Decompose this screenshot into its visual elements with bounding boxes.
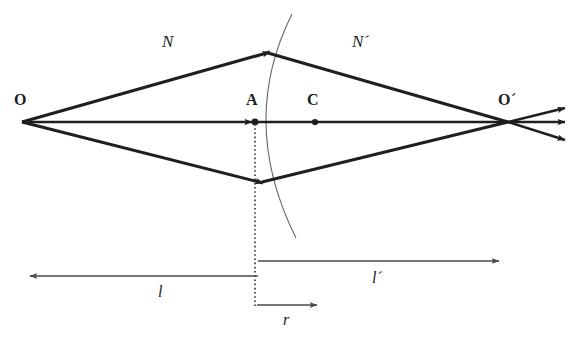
image-point-label: O´ [498, 92, 517, 108]
incident-medium-label: N [162, 33, 173, 50]
exit-ray-upper [508, 108, 565, 122]
image-distance-label: l´ [372, 270, 382, 286]
spherical-surface-arc [266, 14, 296, 238]
object-point-label: O [14, 92, 27, 108]
upper-refracted-ray [268, 53, 508, 122]
vertex-point-label: A [246, 92, 258, 108]
object-distance-label: l [158, 284, 162, 300]
center-point-label: C [307, 92, 319, 108]
lower-refracted-ray [262, 122, 508, 182]
radius-label: r [283, 312, 289, 328]
exit-ray-lower [508, 122, 565, 140]
optics-ray-diagram: O A C O´ N N´ l l´ r [0, 0, 580, 341]
center-point-marker [312, 119, 318, 125]
diagram-canvas [0, 0, 580, 341]
lower-incident-ray [22, 122, 263, 183]
upper-incident-ray [22, 52, 270, 122]
refracted-medium-label: N´ [352, 33, 369, 50]
